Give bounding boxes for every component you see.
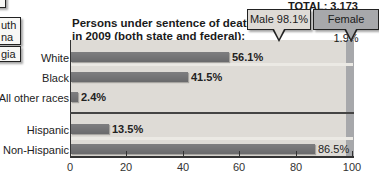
x-tick	[296, 151, 297, 157]
side-box-label: uth	[1, 19, 16, 31]
x-tick-label: 100	[337, 161, 367, 173]
x-tick-label: 40	[168, 161, 198, 173]
bar-non-hispanic	[71, 144, 315, 154]
side-box-1: uth na	[0, 17, 21, 45]
bar-white	[71, 52, 229, 62]
category-label: White	[41, 52, 69, 64]
chart-title-line1: Persons under sentence of death	[72, 17, 254, 30]
value-label: 56.1%	[232, 51, 263, 63]
bar-hispanic	[71, 124, 109, 134]
value-label: 2.4%	[81, 91, 106, 103]
male-callout-label: Male 98.1%	[250, 13, 308, 25]
group-divider	[70, 112, 354, 114]
x-tick-label: 0	[55, 161, 85, 173]
side-box-2: gia	[0, 46, 21, 62]
x-tick	[126, 151, 127, 157]
value-label: 41.5%	[191, 71, 222, 83]
side-box-top	[0, 0, 6, 8]
bar-black	[71, 72, 188, 82]
x-tick	[239, 151, 240, 157]
category-label: Hispanic	[27, 124, 69, 136]
x-axis	[70, 156, 354, 158]
x-tick	[70, 151, 71, 157]
side-box-label: gia	[1, 48, 16, 60]
x-tick-label: 60	[224, 161, 254, 173]
value-label: 13.5%	[112, 123, 143, 135]
x-tick-label: 20	[111, 161, 141, 173]
x-tick	[352, 151, 353, 157]
female-callout: Female 1.9%	[313, 9, 379, 30]
callout-pointer-fill	[274, 29, 284, 39]
x-tick-label: 80	[281, 161, 311, 173]
male-callout: Male 98.1%	[247, 9, 311, 30]
bar-other-races	[71, 92, 78, 102]
category-label: All other races	[0, 92, 69, 104]
value-label: 86.5%	[318, 143, 349, 155]
category-label: Non-Hispanic	[3, 144, 69, 156]
row-band	[71, 63, 353, 66]
side-box-label: na	[1, 31, 13, 43]
callout-pointer-fill	[346, 29, 356, 39]
x-tick	[183, 151, 184, 157]
row-band	[71, 137, 353, 140]
category-label: Black	[42, 72, 69, 84]
